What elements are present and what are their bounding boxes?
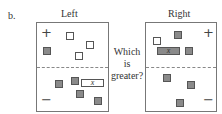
- minus-sign: −: [203, 93, 214, 106]
- negative-tile: [163, 74, 171, 82]
- unknown-x-bar: x: [81, 79, 104, 87]
- negative-tile: [176, 99, 184, 107]
- question-line: is: [108, 58, 146, 70]
- positive-tile: [153, 37, 161, 45]
- negative-tile: [185, 47, 193, 55]
- positive-tile: [75, 52, 83, 60]
- divider-line: [146, 67, 216, 68]
- negative-tile: [76, 90, 84, 98]
- plus-sign: +: [203, 26, 214, 39]
- positive-tile: [86, 41, 94, 49]
- negative-tile: [187, 81, 195, 89]
- panel-label: b.: [8, 10, 16, 21]
- question-line: greater?: [108, 70, 146, 82]
- unknown-x-bar: x: [157, 47, 180, 55]
- negative-tile: [174, 31, 182, 39]
- negative-tile: [55, 80, 63, 88]
- right-title: Right: [168, 8, 190, 19]
- positive-tile: [66, 32, 74, 40]
- negative-tile: [71, 77, 79, 85]
- negative-tile: [94, 97, 102, 105]
- divider-line: [37, 67, 108, 68]
- question-text: Which is greater?: [108, 46, 146, 82]
- left-title: Left: [61, 8, 78, 19]
- question-line: Which: [108, 46, 146, 58]
- left-panel: + x −: [36, 22, 109, 112]
- negative-tile: [43, 47, 51, 55]
- plus-sign: +: [41, 26, 52, 39]
- minus-sign: −: [41, 93, 52, 106]
- right-panel: + x −: [145, 22, 217, 112]
